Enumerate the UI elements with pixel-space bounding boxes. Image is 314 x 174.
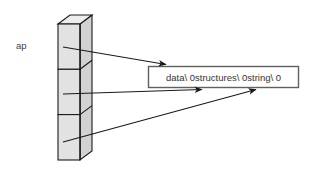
string-buffer-text: data\ 0structures\ 0string\ 0 [166, 72, 281, 83]
array-cell-2-face [58, 115, 80, 160]
diagram-illustration: ap data\ 0structures\ 0string\ 0 [0, 0, 314, 174]
string-buffer-box: data\ 0structures\ 0string\ 0 [149, 67, 299, 88]
diagram-canvas: ap data\ 0structures\ 0string\ 0 [0, 0, 314, 174]
array-side-face [80, 15, 92, 160]
array-cell-1-face [58, 69, 80, 114]
pointer-array-label: ap [16, 40, 27, 51]
array-cell-0-face [58, 24, 80, 69]
